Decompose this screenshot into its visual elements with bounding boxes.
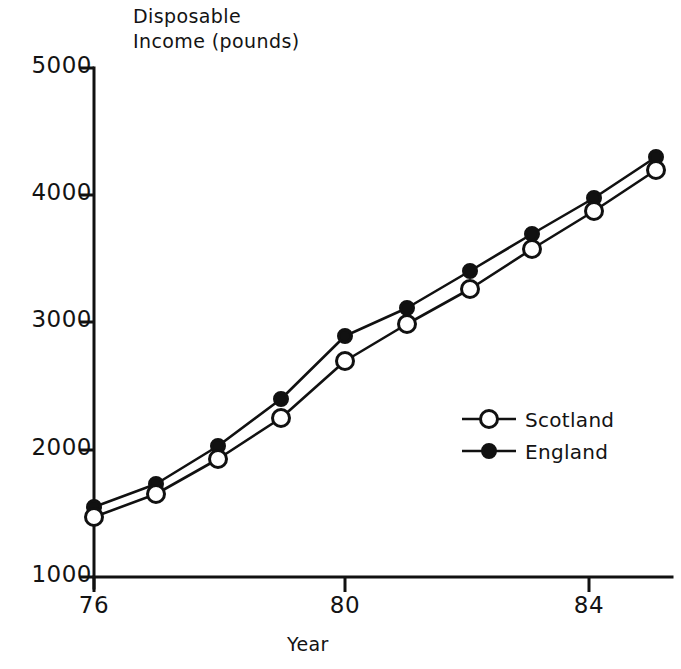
data-point <box>648 162 665 179</box>
legend-marker-england <box>462 445 516 458</box>
data-point <box>526 228 539 241</box>
plot-area <box>0 0 681 669</box>
data-point <box>86 509 103 526</box>
legend <box>462 411 516 458</box>
data-point <box>399 316 416 333</box>
legend-marker-scotland <box>462 411 516 428</box>
data-point <box>148 486 165 503</box>
data-point <box>401 302 414 315</box>
data-point <box>337 353 354 370</box>
series-line-scotland <box>94 170 656 517</box>
data-point <box>586 203 603 220</box>
data-point <box>464 265 477 278</box>
data-point <box>275 393 288 406</box>
chart-figure: DisposableIncome (pounds) Year 5000 4000… <box>0 0 681 669</box>
data-point <box>339 330 352 343</box>
data-point <box>210 451 227 468</box>
data-point <box>273 410 290 427</box>
series-line-england <box>94 157 656 507</box>
series-markers-england <box>88 151 663 514</box>
data-point <box>524 241 541 258</box>
data-point <box>462 281 479 298</box>
